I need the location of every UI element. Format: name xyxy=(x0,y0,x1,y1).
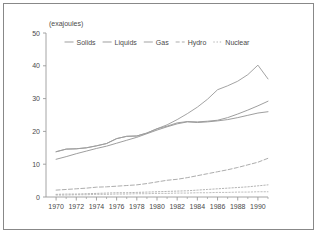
series-line-hydro xyxy=(56,158,268,190)
x-tick-label: 1982 xyxy=(169,203,185,210)
legend-label-liquids: Liquids xyxy=(115,39,138,47)
y-tick-label: 30 xyxy=(32,95,40,102)
legend-label-hydro: Hydro xyxy=(188,39,207,47)
x-tick-label: 1972 xyxy=(68,203,84,210)
plot-layer: 0102030405019701972197419761978198019821… xyxy=(32,20,268,210)
x-tick-label: 1988 xyxy=(230,203,246,210)
series-line-liquids xyxy=(56,112,268,160)
x-tick-label: 1986 xyxy=(210,203,226,210)
x-tick-label: 1980 xyxy=(149,203,165,210)
x-tick-label: 1990 xyxy=(250,203,266,210)
y-tick-label: 20 xyxy=(32,128,40,135)
legend-label-nuclear: Nuclear xyxy=(225,39,250,46)
x-tick-label: 1984 xyxy=(190,203,206,210)
line-chart: 0102030405019701972197419761978198019821… xyxy=(0,0,317,233)
x-tick-label: 1978 xyxy=(129,203,145,210)
x-tick-label: 1974 xyxy=(89,203,105,210)
y-tick-label: 0 xyxy=(36,194,40,201)
x-tick-label: 1970 xyxy=(48,203,64,210)
y-tick-label: 10 xyxy=(32,161,40,168)
legend-label-solids: Solids xyxy=(77,39,97,46)
x-tick-label: 1976 xyxy=(109,203,125,210)
series-line-gas xyxy=(56,65,268,152)
y-axis-title: (exajoules) xyxy=(49,20,83,28)
legend-label-gas: Gas xyxy=(156,39,169,46)
chart-figure: 0102030405019701972197419761978198019821… xyxy=(0,0,317,233)
y-tick-label: 40 xyxy=(32,62,40,69)
y-tick-label: 50 xyxy=(32,30,40,37)
